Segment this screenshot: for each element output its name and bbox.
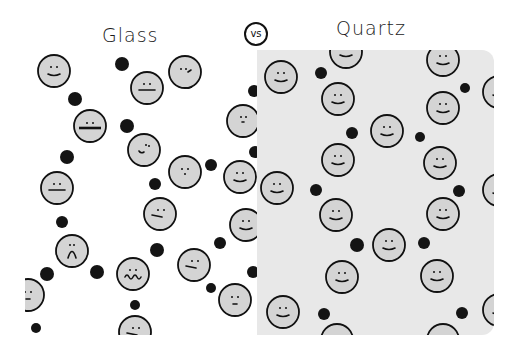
face-atom-slant [144, 198, 176, 230]
dot-atom [249, 146, 257, 158]
dot-atom [120, 119, 134, 133]
face-atom-smile [322, 83, 354, 115]
face-atom-small [25, 279, 44, 311]
face-atom-smile [483, 294, 494, 326]
face-atom-smile [224, 161, 256, 193]
face-atom-smile [427, 92, 459, 124]
dot-atom [460, 83, 470, 93]
dot-atom [130, 300, 140, 310]
face-atom-wide-flat [74, 110, 106, 142]
face-atom-smile [326, 261, 358, 293]
dot-atom [31, 323, 41, 333]
dot-atom [40, 267, 54, 281]
dot-atom [350, 238, 364, 252]
dot-atom [56, 216, 68, 228]
face-atom-small [219, 284, 251, 316]
face-atom-wavy [117, 258, 149, 290]
face-atom-smile [322, 144, 354, 176]
vs-badge: vs [244, 22, 268, 46]
dot-atom [418, 237, 430, 249]
face-atom-smile [373, 229, 405, 261]
face-atom-smile [421, 260, 453, 292]
dot-atom [318, 308, 330, 320]
glass-title: Glass [102, 24, 158, 46]
dot-atom [90, 265, 104, 279]
dot-atom [115, 57, 129, 71]
face-atom-flat [41, 172, 73, 204]
face-atom-side [227, 105, 257, 137]
face-atom-smile [261, 172, 293, 204]
dot-atom [205, 159, 217, 171]
face-atom-flat [131, 72, 163, 104]
dot-atom [310, 184, 322, 196]
face-atom-frown [56, 235, 88, 267]
dot-atom [247, 266, 257, 278]
glass-panel [25, 50, 257, 335]
face-atom-smirk [128, 134, 160, 166]
dot-atom [68, 92, 82, 106]
dot-atom [415, 132, 425, 142]
dot-atom [315, 67, 327, 79]
face-atom-smile [321, 324, 353, 335]
face-atom-smile [38, 55, 70, 87]
quartz-title: Quartz [336, 17, 406, 39]
dot-atom [149, 178, 161, 190]
dot-atom [346, 127, 358, 139]
dot-atom [248, 85, 257, 97]
quartz-panel [257, 50, 494, 335]
face-atom-dots [169, 156, 201, 188]
dot-atom [453, 185, 465, 197]
face-atom-confused [169, 56, 201, 88]
face-atom-slant [178, 249, 210, 281]
dot-atom [456, 307, 468, 319]
face-atom-smile [427, 198, 459, 230]
dot-atom [206, 283, 216, 293]
face-atom-smile [320, 199, 352, 231]
face-atom-smile [427, 324, 459, 335]
face-atom-smile [267, 296, 299, 328]
quartz-structure-diagram [257, 50, 494, 335]
dot-atom [60, 150, 74, 164]
face-atom-smile [371, 115, 403, 147]
face-atom-smile [483, 76, 494, 108]
face-atom-smile [483, 174, 494, 206]
dot-atom [214, 237, 226, 249]
face-atom-smile [424, 147, 456, 179]
face-atom-smile [265, 61, 297, 93]
face-atom-slant [119, 316, 151, 335]
face-atom-smile [230, 209, 257, 241]
dot-atom [150, 243, 164, 257]
face-atom-smile [330, 50, 362, 68]
glass-structure-diagram [25, 50, 257, 335]
face-atom-smile [427, 50, 459, 76]
